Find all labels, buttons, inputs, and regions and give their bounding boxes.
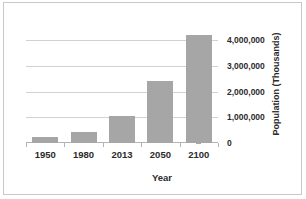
y-axis-tick: [196, 117, 201, 118]
bar: [71, 132, 97, 143]
x-axis-tick: [103, 143, 104, 147]
chart-figure: 01,000,0002,000,0003,000,0004,000,000 Po…: [3, 2, 302, 195]
x-axis-tick-label: 2100: [180, 150, 218, 160]
x-axis-title: Year: [132, 173, 192, 183]
y-axis-tick: [196, 92, 201, 93]
y-axis-tick-label: 4,000,000: [227, 36, 265, 45]
y-axis-title: Population (Thousands): [272, 33, 281, 136]
y-axis-tick: [196, 66, 201, 67]
x-axis-tick-label: 1980: [64, 150, 102, 160]
bar: [32, 137, 58, 143]
x-axis-tick: [26, 143, 27, 147]
x-axis-tick-label: 1950: [26, 150, 64, 160]
y-axis-tick-label: 1,000,000: [227, 113, 265, 122]
y-axis-tick-label: 3,000,000: [227, 62, 265, 71]
x-axis-tick: [64, 143, 65, 147]
x-axis-tick: [141, 143, 142, 147]
x-axis-tick: [180, 143, 181, 147]
bar: [109, 116, 135, 143]
bar: [186, 35, 212, 143]
y-axis-tick-label: 0: [227, 139, 232, 148]
x-axis-tick-label: 2050: [141, 150, 179, 160]
y-axis-tick: [196, 143, 201, 144]
bar: [147, 81, 173, 143]
y-axis-tick: [196, 40, 201, 41]
x-axis-tick-label: 2013: [103, 150, 141, 160]
x-axis-tick: [218, 143, 219, 147]
y-axis-tick-label: 2,000,000: [227, 87, 265, 96]
bar-series: [26, 25, 218, 143]
plot-area: [26, 25, 218, 143]
